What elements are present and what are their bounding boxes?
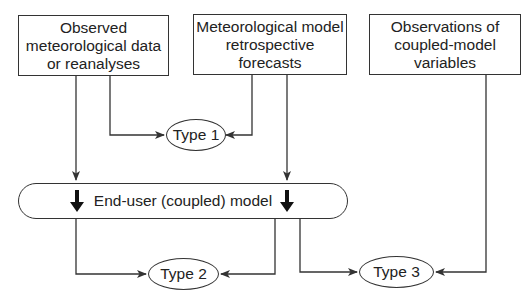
type2-label: Type 2 [160,265,207,283]
end-user-model-box: End-user (coupled) model [18,183,348,219]
type1-label: Type 1 [173,126,220,144]
observations-box: Observations of coupled-model variables [369,14,521,75]
type3-ellipse: Type 3 [359,256,434,288]
observations-label: Observations of coupled-model variables [372,18,518,72]
type1-ellipse: Type 1 [166,119,226,151]
observed-data-label: Observed meteorological data or reanalys… [21,19,166,73]
type2-ellipse: Type 2 [148,258,219,290]
forecasts-box: Meteorological model retrospective forec… [193,14,347,75]
down-arrow-icon [70,190,84,212]
end-user-model-label: End-user (coupled) model [94,192,272,210]
type3-label: Type 3 [373,263,420,281]
down-arrow-icon [280,190,294,212]
observed-data-box: Observed meteorological data or reanalys… [18,15,169,76]
forecasts-label: Meteorological model retrospective forec… [196,18,344,72]
